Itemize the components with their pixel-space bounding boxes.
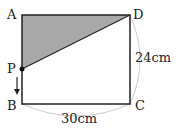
arrow-head-icon bbox=[14, 89, 20, 95]
label-p: P bbox=[7, 61, 16, 76]
label-b: B bbox=[7, 98, 17, 113]
diagram-svg: A D P B C 24cm 30cm bbox=[0, 0, 178, 137]
height-label: 24cm bbox=[135, 50, 171, 65]
width-label: 30cm bbox=[61, 111, 97, 126]
label-c: C bbox=[135, 98, 145, 113]
geometry-diagram: A D P B C 24cm 30cm bbox=[0, 0, 178, 137]
point-p-dot bbox=[20, 67, 25, 72]
label-d: D bbox=[133, 7, 143, 22]
label-a: A bbox=[6, 7, 17, 22]
